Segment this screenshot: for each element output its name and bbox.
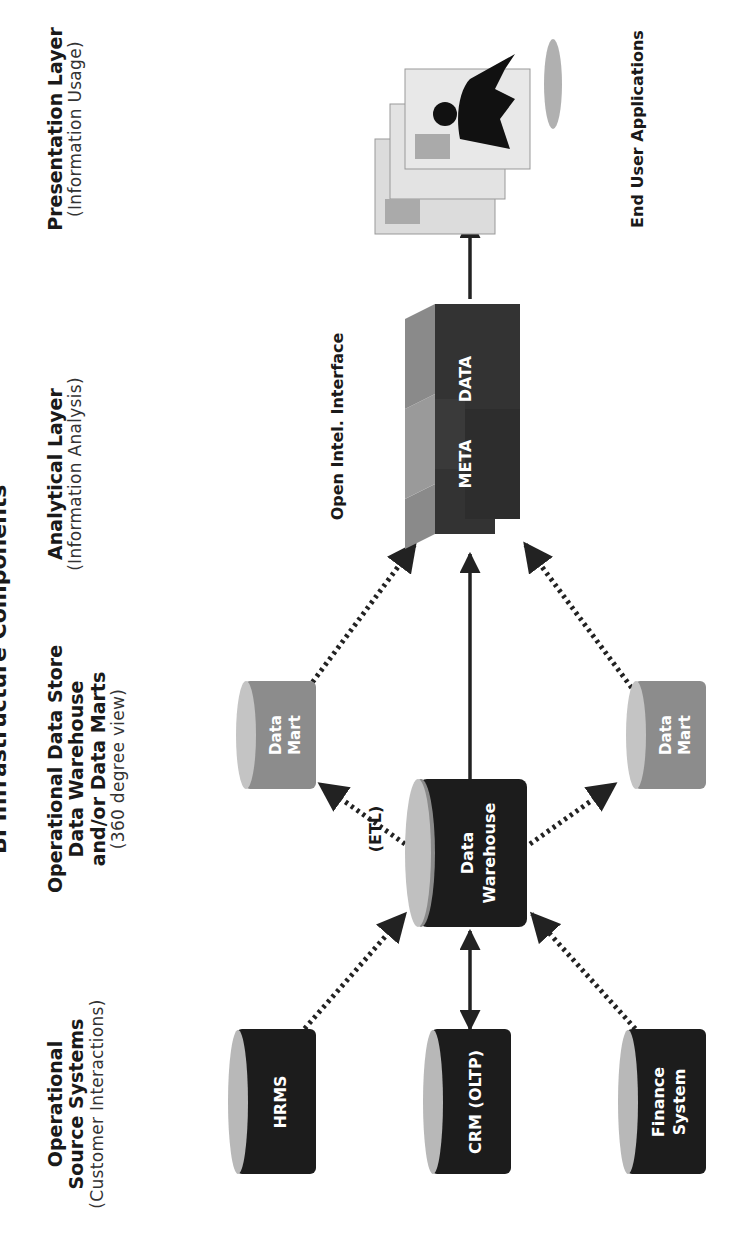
arrow-warehouse-to-mart-top (320, 784, 405, 844)
meta-label: META (456, 439, 475, 489)
cylinder-data-mart-bottom[interactable]: Data Mart (626, 681, 708, 789)
cylinder-label: Warehouse (480, 802, 499, 903)
cylinder-label: HRMS (271, 1075, 290, 1128)
cylinder-label: Data (657, 715, 675, 755)
cylinder-label: Mart (286, 715, 304, 755)
cylinder-data-warehouse[interactable]: Data Warehouse (405, 779, 530, 927)
cylinder-finance[interactable]: Finance System (618, 1029, 713, 1174)
data-label: DATA (456, 355, 475, 402)
end-user-applications-label: End User Applications (628, 14, 647, 244)
cylinder-label: Data (267, 715, 285, 755)
cylinder-label: System (670, 1069, 689, 1136)
cylinder-label: Data (458, 832, 477, 875)
etl-label: (ETL) (366, 799, 385, 859)
cylinder-hrms[interactable]: HRMS (228, 1029, 323, 1174)
arrow-finance-to-warehouse (532, 914, 640, 1034)
cylinder-crm[interactable]: CRM (OLTP) (423, 1029, 518, 1174)
cylinder-data-mart-top[interactable]: Data Mart (236, 681, 318, 789)
metadata-block[interactable]: META DATA (405, 299, 525, 549)
open-interface-label: Open Intel. Interface (328, 319, 347, 534)
arrow-hrms-to-warehouse (300, 914, 405, 1034)
user-with-screens-icon (365, 39, 585, 239)
cylinder-label: Finance (649, 1067, 668, 1137)
cylinder-label: Mart (676, 715, 694, 755)
arrow-mart-top-to-metadata (300, 544, 415, 699)
arrow-mart-bottom-to-metadata (525, 544, 640, 699)
cylinder-label: CRM (OLTP) (466, 1050, 485, 1154)
diagram-canvas: BI Infrastructure Components Operational… (0, 0, 735, 1249)
arrow-warehouse-to-mart-bottom (530, 784, 615, 844)
